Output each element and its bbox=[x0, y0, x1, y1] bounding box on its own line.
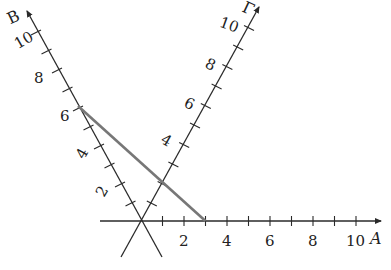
gamma-tick-label-10: 10 bbox=[217, 13, 241, 36]
gamma-tick-label-6: 6 bbox=[181, 94, 197, 114]
oblique-axes-diagram: 2 4 6 8 10 A 2 4 6 8 10 B 4 6 8 10 Γ bbox=[0, 0, 391, 270]
b-tick-label-10: 10 bbox=[11, 28, 37, 53]
gamma-axis bbox=[121, 7, 259, 257]
a-tick-label-6: 6 bbox=[265, 232, 275, 250]
b-tick-label-2: 2 bbox=[92, 183, 112, 200]
a-tick-label-2: 2 bbox=[179, 232, 189, 250]
b-tick-label-8: 8 bbox=[34, 69, 44, 87]
gamma-tick-label-8: 8 bbox=[202, 54, 218, 74]
segment-b6-to-a3 bbox=[78, 106, 206, 221]
a-tick-label-8: 8 bbox=[308, 232, 318, 250]
a-tick-label-4: 4 bbox=[222, 232, 232, 250]
a-tick-label-10: 10 bbox=[346, 232, 365, 250]
gamma-axis-ticks bbox=[147, 26, 254, 207]
b-tick-label-6: 6 bbox=[60, 107, 70, 125]
diagram-canvas: 2 4 6 8 10 A 2 4 6 8 10 B 4 6 8 10 Γ bbox=[0, 0, 391, 270]
b-tick-label-4: 4 bbox=[72, 145, 92, 162]
gamma-tick-label-4: 4 bbox=[158, 130, 175, 150]
a-axis-label: A bbox=[368, 229, 382, 248]
b-axis-label: B bbox=[4, 6, 23, 28]
gamma-axis-label: Γ bbox=[239, 0, 257, 19]
